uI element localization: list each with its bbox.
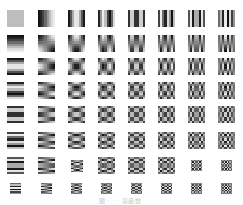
dct-basis-tile-1-1: [38, 35, 55, 52]
dct-basis-tile-7-5: [161, 183, 172, 194]
dct-basis-tile-7-4: [131, 183, 142, 194]
dct-basis-tile-6-6: [191, 160, 202, 171]
dct-basis-tile-1-6: [188, 35, 205, 52]
dct-basis-tile-0-2: [68, 10, 85, 27]
dct-basis-tile-7-7: [221, 183, 232, 194]
dct-basis-tile-0-4: [128, 10, 145, 27]
dct-basis-tile-2-7: [218, 58, 235, 75]
dct-basis-tile-5-3: [98, 132, 115, 149]
dct-basis-tile-6-7: [221, 160, 232, 171]
dct-basis-tile-5-7: [218, 132, 235, 149]
dct-basis-tile-6-3: [98, 157, 115, 174]
dct-basis-tile-4-3: [98, 106, 115, 123]
dct-basis-tile-1-0: [7, 35, 24, 52]
dct-basis-tile-7-2: [71, 183, 82, 194]
dct-basis-tile-3-6: [188, 82, 205, 99]
dct-basis-tile-3-2: [68, 82, 85, 99]
figure-caption: 图 · · · 基函数: [40, 196, 200, 205]
dct-basis-tile-4-4: [128, 106, 145, 123]
dct-basis-tile-7-0: [10, 183, 21, 194]
dct-basis-tile-5-2: [68, 132, 85, 149]
dct-basis-tile-3-7: [218, 82, 235, 99]
dct-basis-tile-3-5: [158, 82, 175, 99]
dct-basis-tile-2-2: [68, 58, 85, 75]
dct-basis-tile-2-6: [188, 58, 205, 75]
dct-basis-tile-6-5: [158, 157, 175, 174]
dct-basis-tile-5-0: [7, 132, 24, 149]
dct-basis-tile-6-4: [128, 157, 145, 174]
dct-basis-tile-5-1: [38, 132, 55, 149]
dct-basis-tile-2-5: [158, 58, 175, 75]
dct-basis-tile-4-5: [158, 106, 175, 123]
dct-basis-tile-1-4: [128, 35, 145, 52]
dct-basis-tile-7-6: [191, 183, 202, 194]
dct-basis-tile-5-5: [158, 132, 175, 149]
dct-basis-tile-5-4: [128, 132, 145, 149]
dct-basis-tile-6-1: [38, 157, 55, 174]
dct-basis-tile-0-7: [218, 10, 235, 27]
dct-basis-tile-5-6: [188, 132, 205, 149]
dct-basis-tile-2-1: [38, 58, 55, 75]
dct-basis-tile-7-1: [41, 183, 52, 194]
dct-basis-tile-0-1: [38, 10, 55, 27]
dct-basis-tile-6-0: [7, 157, 24, 174]
dct-basis-tile-4-6: [188, 106, 205, 123]
dct-basis-tile-3-3: [98, 82, 115, 99]
dct-basis-tile-2-0: [7, 58, 24, 75]
dct-basis-tile-7-3: [101, 183, 112, 194]
dct-basis-tile-0-3: [98, 10, 115, 27]
dct-basis-tile-0-0: [7, 10, 24, 27]
dct-basis-tile-3-0: [7, 82, 24, 99]
dct-basis-tile-4-0: [7, 106, 24, 123]
dct-basis-tile-0-5: [158, 10, 175, 27]
dct-basis-tile-3-1: [38, 82, 55, 99]
dct-basis-tile-3-4: [128, 82, 145, 99]
dct-basis-tile-1-5: [158, 35, 175, 52]
dct-basis-grid: [0, 0, 243, 195]
dct-basis-tile-0-6: [188, 10, 205, 27]
dct-basis-tile-2-3: [98, 58, 115, 75]
dct-basis-tile-2-4: [128, 58, 145, 75]
dct-basis-tile-6-2: [71, 160, 83, 172]
dct-basis-tile-1-3: [98, 35, 115, 52]
dct-basis-tile-4-1: [38, 106, 55, 123]
dct-basis-tile-1-2: [68, 35, 85, 52]
dct-basis-tile-4-7: [218, 106, 235, 123]
dct-basis-tile-1-7: [218, 35, 235, 52]
dct-basis-tile-4-2: [68, 106, 85, 123]
